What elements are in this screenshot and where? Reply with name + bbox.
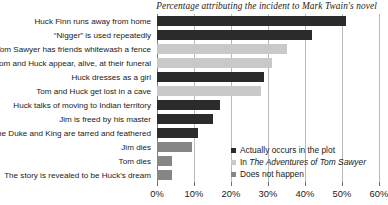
category-label: Huck talks of moving to Indian territory xyxy=(13,101,151,110)
bar-row xyxy=(157,100,379,110)
x-tick-label: 10% xyxy=(185,188,204,199)
x-tick-label: 60% xyxy=(370,188,388,199)
legend-item: In The Adventures of Tom Sawyer xyxy=(231,157,377,168)
x-tick xyxy=(157,182,158,186)
bar-row xyxy=(157,86,379,96)
bar xyxy=(157,72,264,82)
bar xyxy=(157,58,272,68)
bar xyxy=(157,114,213,124)
legend-swatch xyxy=(231,172,236,177)
bar xyxy=(157,44,287,54)
category-label: Tom and Huck get lost in a cave xyxy=(36,87,151,96)
bar xyxy=(157,86,261,96)
x-tick xyxy=(379,182,380,186)
bar xyxy=(157,16,346,26)
x-tick-label: 0% xyxy=(150,188,164,199)
bar xyxy=(157,142,192,152)
legend-swatch xyxy=(231,148,236,153)
x-tick-label: 20% xyxy=(222,188,241,199)
legend-label: Actually occurs in the plot xyxy=(240,145,335,156)
chart-subtitle: Percentage attributing the incident to M… xyxy=(150,1,383,11)
bar-row xyxy=(157,30,379,40)
bar xyxy=(157,100,220,110)
gridline-60 xyxy=(379,14,380,182)
bar-row xyxy=(157,114,379,124)
bar-row xyxy=(157,128,379,138)
category-label: The Duke and King are tarred and feather… xyxy=(0,129,151,138)
legend-item: Does not happen xyxy=(231,169,377,180)
x-tick-label: 30% xyxy=(259,188,278,199)
bar-row xyxy=(157,58,379,68)
category-label: The story is revealed to be Huck's dream xyxy=(4,171,151,180)
x-tick xyxy=(231,182,232,186)
bar xyxy=(157,30,312,40)
x-tick xyxy=(268,182,269,186)
legend-swatch xyxy=(231,160,236,165)
x-tick-label: 40% xyxy=(296,188,315,199)
category-label: Tom Sawyer has friends whitewash a fence xyxy=(0,45,151,54)
bar-row xyxy=(157,44,379,54)
x-axis-ticks xyxy=(157,182,379,187)
chart-legend: Actually occurs in the plotIn The Advent… xyxy=(231,145,377,181)
x-tick xyxy=(342,182,343,186)
legend-label: In The Adventures of Tom Sawyer xyxy=(240,157,366,168)
category-label: Tom dies xyxy=(119,157,151,166)
x-axis-labels: 0%10%20%30%40%50%60% xyxy=(157,188,379,202)
bar xyxy=(157,170,172,180)
legend-item: Actually occurs in the plot xyxy=(231,145,377,156)
bar xyxy=(157,128,198,138)
category-label: Huck dresses as a girl xyxy=(71,73,151,82)
category-label: “Nigger” is used repeatedly xyxy=(54,31,151,40)
legend-label: Does not happen xyxy=(240,169,304,180)
bar-row xyxy=(157,72,379,82)
category-axis-labels: Huck Finn runs away from home“Nigger” is… xyxy=(0,14,154,182)
category-label: Tom and Huck appear, alive, at their fun… xyxy=(0,59,151,68)
x-tick xyxy=(194,182,195,186)
x-tick xyxy=(305,182,306,186)
category-label: Jim dies xyxy=(121,143,151,152)
x-tick-label: 50% xyxy=(333,188,352,199)
category-label: Huck Finn runs away from home xyxy=(34,17,151,26)
category-label: Jim is freed by his master xyxy=(59,115,151,124)
bar-row xyxy=(157,16,379,26)
bar xyxy=(157,156,172,166)
